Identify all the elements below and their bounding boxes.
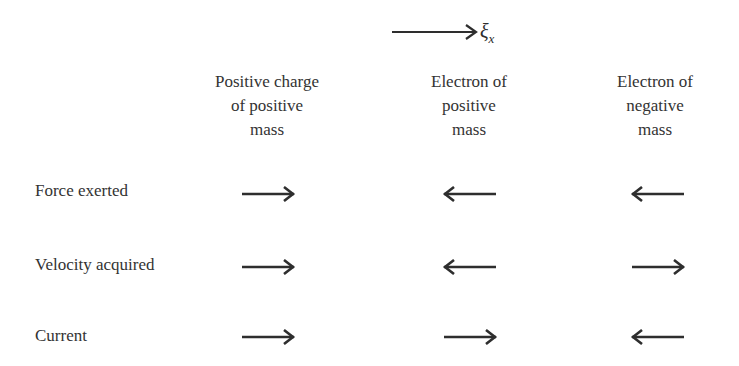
arrow-left-icon <box>630 329 686 345</box>
row-label-current: Current <box>35 326 87 346</box>
arrow-right-icon <box>240 186 296 202</box>
electric-field-indicator: ξx <box>392 20 502 44</box>
column-header-positive-charge: Positive chargeof positivemass <box>182 70 352 142</box>
arrow-left-icon <box>442 186 498 202</box>
arrow-right-icon <box>240 329 296 345</box>
column-header-electron-negative-mass: Electron ofnegativemass <box>570 70 739 142</box>
field-arrow-icon <box>392 20 480 44</box>
arrow-right-icon <box>240 259 296 275</box>
row-label-velocity: Velocity acquired <box>35 255 154 275</box>
arrow-right-icon <box>630 259 686 275</box>
arrow-left-icon <box>442 259 498 275</box>
arrow-left-icon <box>630 186 686 202</box>
arrow-right-icon <box>442 329 498 345</box>
field-symbol: ξx <box>480 20 494 47</box>
column-header-electron-positive-mass: Electron ofpositivemass <box>384 70 554 142</box>
row-label-force: Force exerted <box>35 181 128 201</box>
